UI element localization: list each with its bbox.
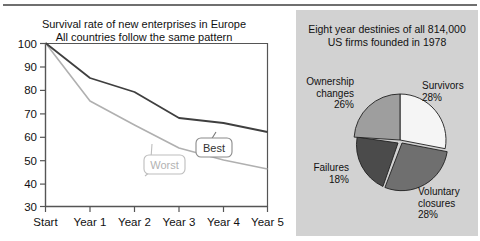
y-axis-ticks — [40, 44, 46, 207]
pie-label-voluntary-name2: closures — [418, 198, 478, 210]
pie-label-voluntary-closures: Voluntary closures 28% — [418, 186, 478, 221]
y-tick-label: 70 — [24, 108, 37, 120]
x-tick-label: Year 2 — [118, 216, 151, 228]
figure-root: Survival rate of new enterprises in Euro… — [0, 0, 480, 241]
line-chart-svg: 100 90 80 70 60 50 40 30 Start Year 1 Ye… — [0, 10, 288, 241]
pie-slices — [354, 94, 447, 191]
y-axis-labels: 100 90 80 70 60 50 40 30 — [18, 38, 37, 213]
pie-label-failures: Failures 18% — [296, 162, 349, 185]
pie-label-survivors-value: 28% — [422, 92, 478, 104]
x-axis-labels: Start Year 1 Year 2 Year 3 Year 4 Year 5 — [33, 216, 284, 228]
y-tick-label: 90 — [24, 61, 37, 73]
callout-worst: Worst — [144, 144, 185, 176]
y-tick-label: 60 — [24, 131, 37, 143]
y-tick-label: 80 — [24, 84, 37, 96]
pie-label-ownership-name1: Ownership — [296, 76, 354, 88]
y-tick-label: 100 — [18, 38, 37, 50]
pie-label-failures-value: 18% — [296, 174, 349, 186]
top-divider — [3, 4, 477, 6]
x-tick-label: Year 1 — [74, 216, 107, 228]
pie-label-survivors-name: Survivors — [422, 80, 478, 92]
callout-best: Best — [196, 132, 232, 157]
y-tick-label: 30 — [24, 201, 37, 213]
pie-label-ownership-name2: changes — [296, 88, 354, 100]
y-tick-label: 40 — [24, 178, 37, 190]
pie-label-voluntary-name1: Voluntary — [418, 186, 478, 198]
callout-best-label: Best — [203, 142, 225, 154]
pie-label-failures-name: Failures — [296, 162, 349, 174]
pie-chart-panel: Eight year destinies of all 814,000 US f… — [296, 10, 478, 236]
x-tick-label: Start — [33, 216, 58, 228]
series-line-worst — [46, 43, 268, 169]
x-tick-label: Year 4 — [207, 216, 240, 228]
line-chart-panel: Survival rate of new enterprises in Euro… — [0, 10, 288, 241]
callout-worst-label: Worst — [150, 159, 179, 171]
y-tick-label: 50 — [24, 155, 37, 167]
x-axis-ticks — [46, 207, 268, 213]
pie-label-voluntary-value: 28% — [418, 209, 478, 221]
x-tick-label: Year 5 — [251, 216, 284, 228]
pie-label-survivors: Survivors 28% — [422, 80, 478, 103]
x-tick-label: Year 3 — [163, 216, 196, 228]
pie-slice-ownership-changes — [354, 94, 400, 140]
pie-label-ownership-value: 26% — [296, 99, 354, 111]
pie-label-ownership-changes: Ownership changes 26% — [296, 76, 354, 111]
